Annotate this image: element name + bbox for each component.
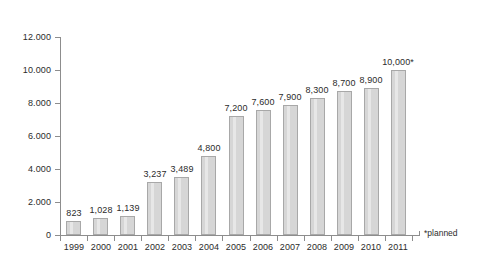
bar	[283, 105, 298, 235]
x-axis-end-tick	[419, 231, 420, 236]
bar-highlight	[287, 106, 290, 234]
bar-highlight	[70, 222, 73, 234]
y-axis-tick	[55, 70, 60, 71]
bar	[256, 110, 271, 235]
footnote-planned: *planned	[424, 229, 458, 238]
x-axis-tick	[195, 236, 196, 241]
x-axis-tick	[168, 236, 169, 241]
x-axis-tick	[222, 236, 223, 241]
bar-highlight	[395, 71, 398, 234]
bar-highlight	[233, 117, 236, 234]
bar-highlight	[341, 92, 344, 234]
x-axis-tick	[412, 236, 413, 241]
bar-highlight	[368, 89, 371, 234]
y-axis-tick	[55, 169, 60, 170]
x-axis-tick	[141, 236, 142, 241]
y-axis-tick-label: 12.000	[0, 33, 51, 42]
y-axis-tick-label: 4.000	[0, 165, 51, 174]
bar	[66, 221, 81, 235]
bar	[120, 216, 135, 235]
bar	[93, 218, 108, 235]
y-axis-tick-label: 0	[0, 231, 51, 240]
x-axis-tick	[87, 236, 88, 241]
x-axis-tick	[385, 236, 386, 241]
x-axis-tick	[60, 236, 61, 241]
x-axis-category-label: 2011	[375, 243, 421, 252]
y-axis-tick-label: 10.000	[0, 66, 51, 75]
y-axis-line	[60, 37, 61, 236]
bar	[174, 177, 189, 235]
x-axis-tick	[250, 236, 251, 241]
bar-highlight	[124, 217, 127, 234]
y-axis-tick	[55, 103, 60, 104]
x-axis-tick	[277, 236, 278, 241]
y-axis-tick	[55, 136, 60, 137]
x-axis-tick	[304, 236, 305, 241]
bar-value-label: 3,489	[159, 165, 205, 174]
bar-highlight	[260, 111, 263, 234]
x-axis-tick	[114, 236, 115, 241]
y-axis-tick-label: 8.000	[0, 99, 51, 108]
bar	[364, 88, 379, 235]
bar-value-label: 10,000*	[375, 58, 421, 67]
bar-value-label: 8,900	[348, 76, 394, 85]
bar-value-label: 4,800	[186, 144, 232, 153]
y-axis-tick-label: 6.000	[0, 132, 51, 141]
bar-highlight	[178, 178, 181, 234]
y-axis-tick	[55, 202, 60, 203]
bar-highlight	[151, 183, 154, 234]
x-axis-tick	[331, 236, 332, 241]
bar	[229, 116, 244, 235]
bar	[310, 98, 325, 235]
bar	[337, 91, 352, 235]
bar-value-label: 1,139	[105, 204, 151, 213]
bar-highlight	[97, 219, 100, 234]
bar-chart: 02.0004.0006.0008.00010.00012.000 8231,0…	[0, 0, 480, 271]
bar-highlight	[314, 99, 317, 234]
x-axis-tick	[358, 236, 359, 241]
y-axis-tick	[55, 37, 60, 38]
y-axis-tick-label: 2.000	[0, 198, 51, 207]
bar	[391, 70, 406, 235]
bar-highlight	[205, 157, 208, 234]
